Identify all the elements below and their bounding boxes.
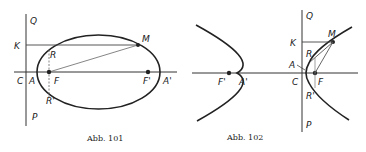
focus-f-prime-point — [227, 71, 231, 75]
label-r-prime: R' — [46, 96, 55, 106]
label-a: A — [288, 60, 295, 70]
label-q: Q — [30, 16, 37, 26]
label-r: R — [50, 50, 56, 60]
label-q: Q — [306, 11, 313, 21]
label-f-prime: F' — [218, 77, 226, 87]
label-f: F — [318, 77, 324, 87]
caption-102: Abb. 102 — [226, 133, 263, 142]
label-f: F — [54, 76, 60, 86]
figure-101: Q K R M C A F F' A' R' P Abb. 101 — [14, 14, 177, 143]
label-p: P — [32, 112, 38, 122]
point-m — [136, 43, 140, 47]
fm-line — [49, 45, 138, 72]
label-a-prime: A' — [162, 76, 172, 86]
label-c: C — [17, 76, 24, 86]
label-a: A — [28, 76, 35, 86]
a-pointer-line — [297, 65, 305, 70]
focus-f-prime-point — [146, 70, 150, 74]
label-r-prime: R' — [306, 91, 315, 101]
label-m: M — [142, 34, 150, 44]
label-r: R — [306, 49, 312, 59]
fm-line — [315, 42, 333, 73]
label-f-prime: F' — [143, 76, 151, 86]
caption-101: Abb. 101 — [86, 134, 123, 143]
label-p: P — [306, 120, 312, 130]
label-k: K — [14, 41, 21, 51]
focus-f-point — [47, 70, 51, 74]
label-m: M — [328, 29, 336, 39]
label-c: C — [292, 77, 299, 87]
figures-canvas: Q K R M C A F F' A' R' P Abb. 101 Q K M … — [0, 0, 366, 152]
rm-line — [310, 42, 333, 62]
label-k: K — [290, 38, 297, 48]
label-a-prime: A' — [238, 77, 248, 87]
figure-102: Q K M R A C F R' P F' A' Abb. 102 — [192, 10, 358, 142]
